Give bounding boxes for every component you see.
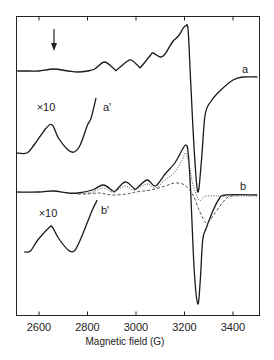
spectrum-trace-b <box>17 145 257 304</box>
plot-frame <box>17 17 260 316</box>
spectra <box>16 25 257 304</box>
spectrum-trace-a- <box>16 98 96 154</box>
x-tick-label: 3000 <box>124 321 148 333</box>
x-tick-label: 3400 <box>221 321 245 333</box>
x-tick-labels: 2600 2800 3000 3200 3400 <box>27 321 245 333</box>
x-tick-label: 2800 <box>75 321 99 333</box>
trace-label-b: b <box>240 180 246 192</box>
x-axis-label: Magnetic field (G) <box>86 336 165 347</box>
top-ticks <box>39 17 233 21</box>
trace-label-b-prime: b' <box>101 204 109 216</box>
scale-label-b: ×10 <box>39 207 58 219</box>
x-tick-label: 2600 <box>27 321 51 333</box>
arrow-icon <box>51 29 57 51</box>
x-tick-label: 3200 <box>172 321 196 333</box>
bottom-ticks <box>39 312 233 316</box>
epr-spectra-chart: 2600 2800 3000 3200 3400 Magnetic field … <box>0 0 274 360</box>
spectrum-trace-b- <box>24 200 97 252</box>
trace-label-a-prime: a' <box>103 101 111 113</box>
scale-label-a: ×10 <box>37 101 56 113</box>
trace-label-a: a <box>242 63 249 75</box>
